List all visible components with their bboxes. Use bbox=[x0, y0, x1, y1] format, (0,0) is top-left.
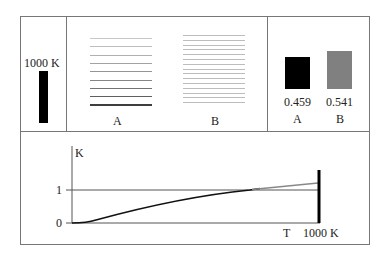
y-tick-0: 0 bbox=[56, 217, 62, 229]
k-curve bbox=[72, 189, 260, 224]
k-curve-tail bbox=[252, 183, 318, 190]
x-label-end: 1000 K bbox=[303, 227, 339, 239]
x-label-t: T bbox=[283, 227, 290, 239]
y-tick-1: 1 bbox=[56, 184, 62, 196]
y-axis-label: K bbox=[75, 147, 84, 159]
